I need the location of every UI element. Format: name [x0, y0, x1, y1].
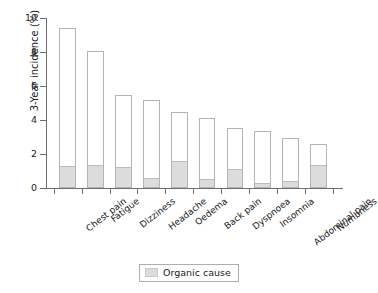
bar-numbness [310, 144, 327, 188]
legend-label-organic-cause: Organic cause [163, 268, 231, 278]
y-tick-label: 4 [13, 115, 37, 125]
bar-insomnia [254, 131, 271, 188]
bar-segment-organic-cause [88, 165, 103, 187]
bar-oedema [171, 112, 188, 188]
x-axis-line [46, 188, 343, 189]
bar-segment-organic-cause [311, 165, 326, 187]
bar-segment-organic-cause [144, 178, 159, 187]
bar-segment-organic-cause [255, 183, 270, 187]
y-tick-label: 8 [13, 47, 37, 57]
x-tick-mark [110, 189, 111, 194]
x-tick-mark [193, 189, 194, 194]
bar-back-pain [199, 118, 216, 188]
x-tick-mark [249, 189, 250, 194]
x-tick-mark [305, 189, 306, 194]
y-tick-label: 2 [13, 149, 37, 159]
bar-dyspnoea [227, 128, 244, 188]
x-tick-mark [277, 189, 278, 194]
x-tick-mark [137, 189, 138, 194]
bar-abdominal-pain [282, 138, 299, 188]
bar-segment-organic-cause [200, 179, 215, 187]
bar-dizziness [115, 95, 132, 188]
legend-swatch-organic-cause [145, 268, 158, 277]
y-tick-mark [40, 188, 46, 189]
bar-segment-organic-cause [228, 169, 243, 187]
bar-segment-organic-cause [172, 161, 187, 187]
bar-segment-organic-cause [116, 167, 131, 187]
x-tick-label: Numbness [335, 196, 378, 233]
x-tick-mark [54, 189, 55, 194]
x-tick-mark [221, 189, 222, 194]
bar-headache [143, 100, 160, 188]
y-tick-label: 10 [13, 13, 37, 23]
plot-area [46, 18, 342, 188]
y-tick-label: 0 [13, 183, 37, 193]
bar-fatigue [87, 51, 104, 188]
y-tick-label: 6 [13, 81, 37, 91]
chart-legend: Organic cause [139, 264, 239, 282]
x-tick-mark [333, 189, 334, 194]
bar-segment-organic-cause [60, 166, 75, 187]
x-tick-mark [82, 189, 83, 194]
bar-chest-pain [59, 28, 76, 188]
bar-segment-organic-cause [283, 181, 298, 187]
x-tick-mark [165, 189, 166, 194]
